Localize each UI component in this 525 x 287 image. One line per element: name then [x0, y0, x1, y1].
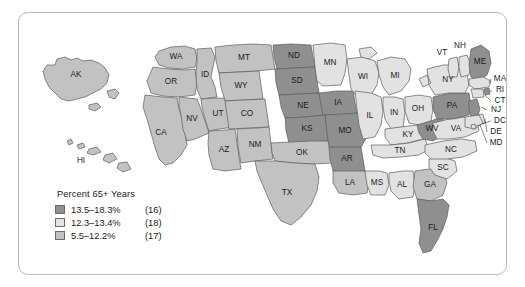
state-label-nj: NJ: [491, 105, 501, 114]
state-label-ri: RI: [496, 85, 504, 94]
state-nc[interactable]: [425, 139, 477, 159]
legend-range-1: 12.3–13.4%: [71, 218, 145, 228]
legend-row: 12.3–13.4% (18): [55, 217, 215, 228]
state-ar[interactable]: [329, 147, 365, 172]
state-label-md: MD: [490, 138, 503, 147]
state-ak[interactable]: [43, 57, 119, 111]
state-id[interactable]: [196, 48, 217, 99]
state-wy[interactable]: [219, 71, 263, 101]
map-legend: Percent 65+ Years 13.5–18.3% (16) 12.3–1…: [55, 189, 215, 243]
state-label-vt: VT: [437, 48, 447, 57]
state-az[interactable]: [208, 129, 241, 171]
legend-swatch-2: [55, 231, 65, 240]
leader-line-md: [480, 125, 487, 143]
state-ok[interactable]: [271, 141, 333, 164]
state-mn[interactable]: [313, 43, 347, 86]
state-wa[interactable]: [155, 46, 197, 69]
state-ne[interactable]: [279, 93, 325, 118]
state-label-hi: HI: [77, 156, 85, 165]
state-nm[interactable]: [237, 127, 273, 163]
state-ri[interactable]: [484, 88, 490, 95]
leader-line-nj: [481, 107, 487, 110]
state-label-nh: NH: [454, 41, 466, 50]
state-sd[interactable]: [275, 67, 319, 95]
legend-range-0: 13.5–18.3%: [71, 205, 145, 215]
state-or[interactable]: [147, 67, 197, 97]
state-tx[interactable]: [255, 161, 319, 225]
legend-row: 5.5–12.2% (17): [55, 230, 215, 241]
map-figure-frame: AKHIWAORCAIDNVUTAZMTWYCONMNDSDNEKSOKTXMN…: [18, 12, 507, 275]
state-in[interactable]: [383, 97, 405, 129]
state-label-ma: MA: [494, 74, 507, 83]
state-dc[interactable]: [471, 124, 476, 129]
state-label-dc: DC: [494, 116, 506, 125]
state-hi[interactable]: [67, 139, 131, 172]
state-me[interactable]: [469, 45, 491, 81]
state-label-de: DE: [490, 127, 502, 136]
state-ma[interactable]: [469, 77, 491, 89]
legend-count-0: (16): [145, 205, 162, 215]
legend-count-1: (18): [145, 218, 162, 228]
legend-title: Percent 65+ Years: [57, 189, 215, 199]
state-oh[interactable]: [405, 95, 433, 125]
state-al[interactable]: [389, 171, 415, 199]
state-label-ct: CT: [495, 96, 506, 105]
state-ks[interactable]: [285, 115, 329, 143]
state-mt[interactable]: [215, 44, 275, 73]
state-pa[interactable]: [433, 93, 471, 119]
state-ms[interactable]: [365, 171, 389, 195]
state-vt[interactable]: [448, 57, 459, 77]
state-nd[interactable]: [273, 44, 315, 69]
legend-count-2: (17): [145, 231, 162, 241]
state-co[interactable]: [225, 99, 269, 129]
legend-swatch-1: [55, 218, 65, 227]
state-ia[interactable]: [319, 91, 357, 115]
legend-row: 13.5–18.3% (16): [55, 204, 215, 215]
legend-swatch-0: [55, 205, 65, 214]
state-fl[interactable]: [417, 199, 449, 253]
state-ct[interactable]: [471, 89, 484, 98]
state-la[interactable]: [333, 171, 369, 195]
leader-line-de: [485, 119, 487, 132]
leader-line-ct: [485, 95, 491, 101]
legend-range-2: 5.5–12.2%: [71, 231, 145, 241]
